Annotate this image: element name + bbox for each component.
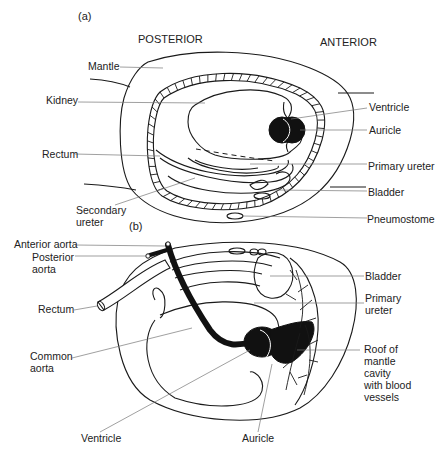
label-primary-ureter-a: Primary ureter bbox=[368, 160, 435, 172]
hatch-tick bbox=[316, 136, 323, 137]
hatch-tick bbox=[153, 181, 160, 183]
label-ventricle-a: Ventricle bbox=[369, 101, 409, 113]
leader-secondary-ureter bbox=[115, 178, 195, 205]
visceral-loop-4 bbox=[180, 282, 260, 290]
hatch-tick bbox=[295, 177, 299, 182]
visceral-loop-2 bbox=[172, 261, 272, 270]
label-roof-line2: mantle bbox=[364, 355, 396, 367]
panel-a: (a) POSTERIOR ANTERIOR bbox=[42, 10, 435, 228]
label-roof-line4: with blood bbox=[363, 379, 411, 391]
hatch-tick bbox=[183, 80, 185, 87]
panel-b-tag: (b) bbox=[129, 220, 142, 232]
label-roof-line3: cavity bbox=[364, 367, 392, 379]
hatch-tick bbox=[149, 124, 155, 128]
label-auricle-a: Auricle bbox=[369, 124, 401, 136]
hatch-tick bbox=[239, 74, 242, 81]
hatch-tick bbox=[216, 74, 217, 81]
pneumostome-shape bbox=[227, 213, 243, 219]
label-rectum: Rectum bbox=[42, 148, 78, 160]
bladder-loop-inner bbox=[250, 180, 268, 189]
label-primary-ureter-b-line2: ureter bbox=[365, 304, 393, 316]
orientation-posterior: POSTERIOR bbox=[138, 33, 203, 45]
hatch-tick bbox=[187, 201, 192, 206]
leader-ventricle bbox=[291, 108, 367, 119]
hatch-tick bbox=[304, 165, 309, 169]
hatch-tick bbox=[152, 107, 157, 112]
vessel bbox=[290, 270, 297, 280]
hatch-tick bbox=[312, 104, 320, 106]
hatch-tick bbox=[293, 88, 300, 93]
label-mantle: Mantle bbox=[88, 60, 120, 72]
rectum-tube-b bbox=[98, 260, 170, 310]
hatch-tick bbox=[221, 204, 224, 210]
leader-anterior-aorta bbox=[75, 245, 165, 246]
leader-kidney bbox=[78, 102, 205, 103]
pneumostome-b bbox=[229, 248, 245, 254]
label-roof-line1: Roof of bbox=[364, 343, 398, 355]
body-line-lower-left bbox=[84, 184, 136, 190]
hatch-tick bbox=[223, 73, 224, 80]
panel-b: (b) bbox=[14, 220, 411, 444]
body-line-upper-left bbox=[90, 79, 130, 87]
rectum-loop-b bbox=[153, 288, 165, 318]
label-ventricle-b: Ventricle bbox=[81, 432, 121, 444]
leader-mantle bbox=[120, 67, 163, 68]
label-secondary-ureter-line2: ureter bbox=[76, 216, 104, 228]
hatch-tick bbox=[316, 112, 324, 113]
hatch-tick bbox=[204, 203, 208, 209]
label-pneumostome: Pneumostome bbox=[367, 213, 435, 225]
vessel bbox=[286, 294, 296, 300]
label-common-aorta-line1: Common bbox=[30, 350, 73, 362]
mantle-outline bbox=[120, 52, 354, 223]
label-bladder-b: Bladder bbox=[365, 270, 402, 282]
bladder-b bbox=[254, 253, 293, 299]
pericardial-outline-b bbox=[147, 320, 263, 406]
hatch-tick bbox=[311, 151, 317, 154]
auricle-shape-b bbox=[270, 322, 314, 364]
hatch-tick bbox=[195, 202, 200, 207]
hatch-tick bbox=[276, 192, 278, 198]
anterior-aorta-opening bbox=[166, 242, 170, 246]
label-rectum-b: Rectum bbox=[38, 303, 74, 315]
hatch-tick bbox=[147, 141, 153, 143]
vessel bbox=[298, 285, 308, 292]
orientation-anterior: ANTERIOR bbox=[320, 36, 377, 48]
label-primary-ureter-b-line1: Primary bbox=[365, 292, 402, 304]
hatch-tick bbox=[163, 193, 170, 197]
visceral-loop-3 bbox=[175, 271, 262, 278]
hatch-tick bbox=[155, 99, 160, 105]
hatch-tick bbox=[212, 204, 215, 210]
leader-auricle-b bbox=[258, 364, 272, 432]
hatch-tick bbox=[285, 85, 292, 90]
vessel bbox=[290, 372, 297, 385]
vessel bbox=[300, 300, 312, 310]
hatch-tick bbox=[270, 80, 276, 86]
hatch-tick bbox=[150, 115, 156, 119]
hatch-tick bbox=[148, 132, 154, 135]
hatch-tick bbox=[263, 77, 268, 83]
hatch-tick bbox=[179, 199, 185, 204]
posterior-aorta-opening bbox=[146, 254, 150, 258]
hatch-tick bbox=[314, 143, 320, 145]
hatch-tick bbox=[148, 158, 154, 159]
aorta-trunk bbox=[168, 245, 265, 344]
diagram-canvas: (a) POSTERIOR ANTERIOR bbox=[0, 0, 442, 456]
hatch-tick bbox=[175, 84, 178, 91]
posterior-aorta-branch bbox=[150, 250, 167, 255]
hatch-tick bbox=[308, 158, 314, 161]
hatch-tick bbox=[300, 171, 305, 175]
leader-pneumostome bbox=[243, 216, 367, 218]
hatch-tick bbox=[300, 92, 308, 96]
label-secondary-ureter-line1: Secondary bbox=[76, 204, 127, 216]
hatch-tick bbox=[238, 203, 239, 209]
rectum-loop-1 bbox=[156, 150, 288, 176]
hatch-tick bbox=[255, 76, 259, 82]
panel-a-tag: (a) bbox=[78, 10, 91, 22]
hatch-tick bbox=[229, 203, 231, 209]
visceral-loop-1 bbox=[170, 252, 280, 262]
leader-common-aorta bbox=[72, 328, 192, 358]
hatch-tick bbox=[317, 128, 324, 129]
vessel bbox=[296, 270, 303, 328]
hatch-tick bbox=[306, 97, 314, 100]
label-roof-line5: vessels bbox=[364, 391, 399, 403]
